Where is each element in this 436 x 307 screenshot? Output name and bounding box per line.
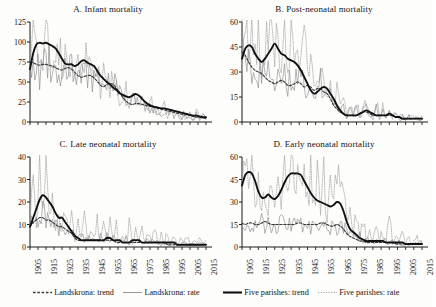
panel-c-svg	[30, 157, 220, 253]
x-tick-label: 1955	[114, 259, 123, 275]
y-tick-label: 45	[212, 175, 238, 184]
y-tick-label: 20	[0, 198, 26, 207]
y-tick-label: 0	[0, 243, 26, 252]
legend: Landskrona: trend Landskrona: rate Five …	[0, 288, 432, 297]
series-line	[30, 20, 206, 122]
y-tick-label: 30	[212, 68, 238, 77]
y-tick-label: 50	[0, 78, 26, 87]
y-tick-label: 40	[0, 153, 26, 162]
x-tick-label: 2005	[409, 259, 418, 275]
x-tick-label: 1995	[178, 259, 187, 275]
x-tick-label: 1995	[393, 259, 402, 275]
panel-d-title: D. Early neonatal mortality	[216, 139, 432, 149]
x-tick-label: 1975	[360, 259, 369, 275]
series-line	[242, 52, 422, 119]
series-line	[242, 155, 422, 245]
x-tick-label: 1955	[327, 259, 336, 275]
y-tick-label: 0	[212, 118, 238, 127]
y-tick-label: 60	[212, 153, 238, 162]
x-tick-label: 1925	[278, 259, 287, 275]
x-tick-label: 1945	[311, 259, 320, 275]
panel-a: A. Infant mortality 0255075100125	[0, 4, 216, 144]
legend-label-3: Five parishes: rate	[339, 288, 399, 297]
panel-c-plot	[30, 157, 206, 247]
axis-lines	[30, 157, 212, 247]
x-tick-label: 1945	[98, 259, 107, 275]
x-tick-label: 1905	[246, 259, 255, 275]
series-line	[242, 213, 422, 246]
dashed-line-swatch	[33, 289, 52, 296]
series-line	[30, 46, 206, 120]
legend-item-3: Five parishes: rate	[318, 288, 400, 297]
y-tick-label: 0	[212, 243, 238, 252]
panel-d: D. Early neonatal mortality 015304560190…	[216, 139, 432, 279]
x-tick-label: 1905	[34, 259, 43, 275]
panel-b-title: B. Post-neonatal mortality	[216, 4, 432, 14]
y-tick-label: 75	[0, 58, 26, 67]
panel-a-svg	[30, 22, 220, 128]
panel-d-svg	[242, 157, 436, 253]
axis-lines	[242, 157, 428, 247]
x-tick-label: 1965	[344, 259, 353, 275]
x-tick-label: 1975	[146, 259, 155, 275]
series-line	[30, 155, 206, 246]
dotted-line-swatch	[318, 289, 337, 296]
panel-a-title: A. Infant mortality	[0, 4, 216, 14]
panel-b-plot	[242, 22, 422, 122]
x-tick-label: 1935	[295, 259, 304, 275]
x-tick-label: 1915	[50, 259, 59, 275]
y-tick-label: 0	[0, 118, 26, 127]
legend-label-2: Five parishes: trend	[244, 288, 309, 297]
series-line	[242, 172, 422, 244]
legend-label-1: Landskrona: rate	[144, 288, 199, 297]
panel-c: C. Late neonatal mortality 0102030401905…	[0, 139, 216, 279]
x-tick-label: 1925	[66, 259, 75, 275]
panel-d-plot	[242, 157, 422, 247]
panel-c-title: C. Late neonatal mortality	[0, 139, 216, 149]
x-tick-label: 1985	[376, 259, 385, 275]
panel-b: B. Post-neonatal mortality 015304560	[216, 4, 432, 144]
x-tick-label: 1965	[130, 259, 139, 275]
legend-item-0: Landskrona: trend	[33, 288, 114, 297]
y-tick-label: 10	[0, 220, 26, 229]
y-tick-label: 25	[0, 98, 26, 107]
y-tick-label: 125	[0, 18, 26, 27]
y-tick-label: 100	[0, 38, 26, 47]
x-tick-label: 1935	[82, 259, 91, 275]
thick-solid-line-swatch	[223, 289, 242, 296]
panel-b-svg	[242, 22, 436, 128]
legend-label-0: Landskrona: trend	[54, 288, 114, 297]
y-tick-label: 30	[0, 175, 26, 184]
y-tick-label: 15	[212, 220, 238, 229]
y-tick-label: 45	[212, 43, 238, 52]
x-tick-label: 1985	[162, 259, 171, 275]
x-tick-label: 2015	[426, 259, 435, 275]
x-tick-label: 2005	[194, 259, 203, 275]
axis-lines	[30, 22, 212, 122]
legend-item-1: Landskrona: rate	[123, 288, 200, 297]
y-tick-label: 15	[212, 93, 238, 102]
y-tick-label: 30	[212, 198, 238, 207]
thin-solid-line-swatch	[123, 289, 142, 296]
legend-item-2: Five parishes: trend	[223, 288, 309, 297]
x-tick-label: 1915	[262, 259, 271, 275]
y-tick-label: 60	[212, 18, 238, 27]
series-line	[242, 222, 422, 245]
series-line	[30, 62, 206, 118]
panel-a-plot	[30, 22, 206, 122]
